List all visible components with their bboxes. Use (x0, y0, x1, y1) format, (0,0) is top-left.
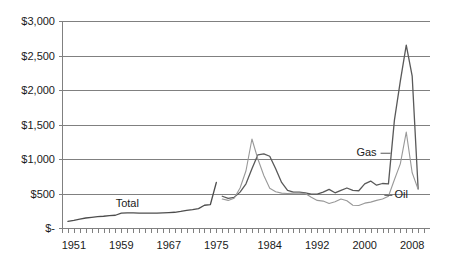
chart-background (0, 0, 452, 268)
y-axis-tick-label: $3,000 (21, 15, 55, 27)
x-axis-tick-label: 1975 (204, 239, 228, 251)
x-axis-tick-label: 2000 (352, 239, 376, 251)
x-axis-tick-label: 1959 (109, 239, 133, 251)
x-axis-tick-label: 1992 (305, 239, 329, 251)
y-axis-tick-label: $1,500 (21, 119, 55, 131)
line-chart-figure: $3,000$2,500$2,000$1,500$1,000$500$- 195… (0, 0, 452, 268)
y-axis-tick-label: $2,500 (21, 50, 55, 62)
y-axis-tick-label: $2,000 (21, 84, 55, 96)
y-axis-tick-label: $500 (31, 188, 55, 200)
series-label-oil: Oil (394, 188, 407, 200)
y-axis-tick-label: $- (45, 222, 55, 234)
chart-canvas: $3,000$2,500$2,000$1,500$1,000$500$- 195… (0, 0, 452, 268)
series-label-gas: Gas (356, 146, 377, 158)
x-axis-tick-label: 1967 (157, 239, 181, 251)
x-axis-tick-label: 2008 (400, 239, 424, 251)
y-axis-tick-label: $1,000 (21, 153, 55, 165)
x-axis-tick-label: 1951 (62, 239, 86, 251)
x-axis-tick-label: 1984 (257, 239, 281, 251)
series-label-total: Total (116, 197, 139, 209)
